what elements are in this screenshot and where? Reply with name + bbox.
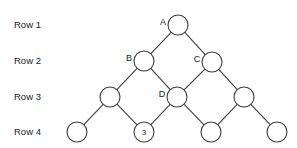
graph-edge bbox=[151, 68, 170, 89]
graph-edge bbox=[151, 104, 170, 124]
graph-node[interactable] bbox=[201, 122, 221, 142]
graph-node-d[interactable] bbox=[167, 87, 187, 107]
row-label-row2: Row 2 bbox=[14, 55, 41, 66]
edges-group bbox=[84, 32, 270, 125]
row-labels-group: Row 1Row 2Row 3Row 4 bbox=[14, 19, 41, 137]
graph-node[interactable] bbox=[234, 87, 254, 107]
node-label: A bbox=[160, 17, 166, 27]
graph-node-b[interactable] bbox=[134, 51, 154, 71]
graph-node-c[interactable] bbox=[202, 52, 222, 72]
graph-node[interactable] bbox=[267, 122, 287, 142]
graph-edge bbox=[117, 104, 137, 125]
node-label: C bbox=[194, 54, 201, 64]
row-label-row4: Row 4 bbox=[14, 126, 41, 137]
node-label: 3 bbox=[142, 128, 147, 137]
node-label: D bbox=[159, 89, 166, 99]
graph-node-a[interactable] bbox=[168, 15, 188, 35]
graph-edge bbox=[84, 104, 103, 124]
diagram-page: ABCD3 Row 1Row 2Row 3Row 4 bbox=[0, 0, 297, 148]
node-label: B bbox=[126, 53, 132, 63]
graph-edge bbox=[218, 104, 237, 124]
graph-edge bbox=[151, 32, 171, 53]
node-labels-group: ABCD3 bbox=[126, 17, 201, 136]
row-label-row1: Row 1 bbox=[14, 19, 41, 30]
row-label-row3: Row 3 bbox=[14, 91, 41, 102]
graph-edge bbox=[184, 104, 204, 125]
graph-edge bbox=[185, 32, 205, 54]
graph-edge bbox=[117, 68, 137, 89]
nodes-group bbox=[67, 15, 287, 142]
graph-edge bbox=[184, 69, 205, 90]
graph-node[interactable] bbox=[67, 122, 87, 142]
graph-node[interactable] bbox=[100, 87, 120, 107]
graph-edge bbox=[219, 69, 238, 89]
lattice-diagram: ABCD3 Row 1Row 2Row 3Row 4 bbox=[0, 0, 297, 148]
graph-edge bbox=[251, 104, 270, 124]
